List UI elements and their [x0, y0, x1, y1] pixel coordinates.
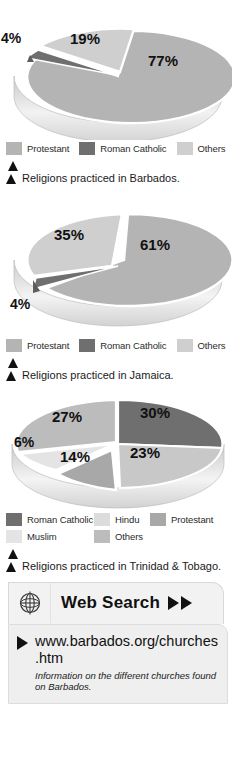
legend-label-others: Others: [198, 143, 226, 154]
triangle-up-icon: [6, 562, 16, 572]
caption-marker-top: [8, 161, 226, 171]
web-search-header[interactable]: Web Search: [8, 582, 224, 624]
legend-jamaica: Protestant Roman Catholic Others: [0, 337, 232, 354]
legend-swatch-hindu: [94, 513, 110, 526]
legend-label-protestant: Protestant: [27, 340, 69, 351]
caption-text-barbados: Religions practiced in Barbados.: [22, 172, 180, 186]
pie-chart-trinidad-tobago-svg: [0, 386, 232, 511]
legend-swatch-roman-catholic: [79, 339, 95, 352]
figure-jamaica: 61% 35% 4% Protestant Roman Catholic Oth…: [0, 192, 232, 385]
legend-swatch-others: [177, 142, 193, 155]
pie-slice-roman-catholic: [118, 400, 222, 448]
globe-icon: [10, 583, 51, 623]
figure-trinidad-tobago: 30% 23% 27% 14% 6% Roman Catholic Hindu …: [0, 386, 232, 576]
caption-row: Religions practiced in Barbados.: [6, 172, 226, 186]
caption-jamaica: Religions practiced in Jamaica.: [0, 354, 232, 385]
caption-barbados: Religions practiced in Barbados.: [0, 157, 232, 188]
right-arrow-icon: [181, 596, 192, 610]
legend-label-roman-catholic: Roman Catholic: [100, 143, 166, 154]
legend-swatch-roman-catholic: [6, 513, 22, 526]
web-search-result-description: Information on the different churches fo…: [35, 670, 219, 693]
legend-label-protestant: Protestant: [171, 514, 213, 525]
caption-marker-top: [8, 358, 226, 368]
web-search-result-url[interactable]: www.barbados.org/churches.htm: [35, 633, 219, 667]
triangle-up-icon: [8, 161, 18, 171]
legend-swatch-protestant: [6, 142, 22, 155]
legend-item-roman-catholic: Roman Catholic: [79, 142, 166, 155]
legend-label-roman-catholic: Roman Catholic: [27, 514, 93, 525]
legend-label-muslim: Muslim: [27, 531, 56, 542]
web-search-results: www.barbados.org/churches.htm Informatio…: [8, 624, 228, 704]
legend-swatch-others: [177, 339, 193, 352]
caption-text-trinidad-tobago: Religions practiced in Trinidad & Tobago…: [22, 560, 221, 574]
legend-item-hindu: Hindu: [94, 513, 150, 526]
figure-barbados: 77% 19% 4% Protestant Roman Catholic Oth…: [0, 0, 232, 188]
pie-slice-others: [16, 400, 116, 452]
legend-swatch-protestant: [6, 339, 22, 352]
legend-label-hindu: Hindu: [115, 514, 139, 525]
pie-chart-barbados-svg: [0, 0, 232, 140]
triangle-up-icon: [8, 549, 18, 559]
right-triangle-bullet-icon: [17, 636, 28, 650]
pie-chart-barbados: 77% 19% 4%: [0, 0, 232, 140]
legend-item-protestant: Protestant: [6, 339, 69, 352]
legend-swatch-roman-catholic: [79, 142, 95, 155]
triangle-up-icon: [6, 371, 16, 381]
web-search-result-item[interactable]: www.barbados.org/churches.htm: [17, 633, 219, 667]
legend-item-others: Others: [177, 142, 226, 155]
caption-trinidad-tobago: Religions practiced in Trinidad & Tobago…: [0, 545, 232, 576]
legend-trinidad-tobago: Roman Catholic Hindu Protestant Muslim O…: [0, 511, 232, 545]
legend-item-roman-catholic: Roman Catholic: [79, 339, 166, 352]
legend-label-roman-catholic: Roman Catholic: [100, 340, 166, 351]
legend-item-others: Others: [94, 530, 143, 543]
web-search-title: Web Search: [61, 593, 160, 613]
legend-item-roman-catholic: Roman Catholic: [6, 513, 94, 526]
legend-label-protestant: Protestant: [27, 143, 69, 154]
legend-item-protestant: Protestant: [150, 513, 213, 526]
legend-barbados: Protestant Roman Catholic Others: [0, 140, 232, 157]
legend-item-protestant: Protestant: [6, 142, 69, 155]
legend-swatch-muslim: [6, 530, 22, 543]
legend-swatch-protestant: [150, 513, 166, 526]
double-right-arrow-icon[interactable]: [168, 596, 192, 610]
legend-item-muslim: Muslim: [6, 530, 94, 543]
legend-swatch-others: [94, 530, 110, 543]
caption-marker-top: [8, 549, 226, 559]
triangle-up-icon: [8, 358, 18, 368]
pie-chart-jamaica: 61% 35% 4%: [0, 192, 232, 337]
pie-chart-jamaica-svg: [0, 192, 232, 337]
caption-row: Religions practiced in Trinidad & Tobago…: [6, 560, 226, 574]
caption-text-jamaica: Religions practiced in Jamaica.: [22, 369, 174, 383]
triangle-up-icon: [6, 174, 16, 184]
web-search-panel: Web Search www.barbados.org/churches.htm…: [0, 582, 232, 704]
legend-label-others: Others: [115, 531, 143, 542]
pie-slice-others: [27, 214, 122, 276]
legend-label-others: Others: [198, 340, 226, 351]
right-arrow-icon: [168, 596, 179, 610]
caption-row: Religions practiced in Jamaica.: [6, 369, 226, 383]
pie-chart-trinidad-tobago: 30% 23% 27% 14% 6%: [0, 386, 232, 511]
globe-icon-svg: [16, 589, 44, 617]
legend-item-others: Others: [177, 339, 226, 352]
